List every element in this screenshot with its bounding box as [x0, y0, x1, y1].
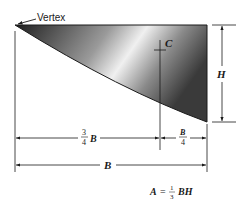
svg-text:4: 4: [181, 138, 185, 147]
svg-text:4: 4: [82, 138, 86, 147]
svg-text:A: A: [149, 186, 157, 197]
base-label: B: [103, 159, 111, 171]
centroid-label: C: [165, 37, 173, 49]
three-quarter-b-label: 3 4 B: [81, 128, 97, 147]
spandrel-diagram: Vertex C H 3 4 B B 4 B A = 1 3 BH: [0, 0, 241, 204]
svg-text:B: B: [179, 128, 186, 137]
svg-text:1: 1: [170, 184, 174, 192]
svg-text:=: =: [160, 186, 166, 197]
svg-text:BH: BH: [177, 186, 194, 197]
svg-text:B: B: [89, 133, 97, 144]
quarter-b-label: B 4: [179, 128, 187, 147]
vertex-leader: [18, 19, 36, 24]
svg-text:3: 3: [82, 128, 86, 137]
area-formula: A = 1 3 BH: [149, 184, 194, 201]
svg-text:3: 3: [170, 193, 174, 201]
spandrel-shape: [15, 25, 207, 122]
height-label: H: [216, 68, 226, 80]
vertex-label: Vertex: [37, 12, 65, 23]
